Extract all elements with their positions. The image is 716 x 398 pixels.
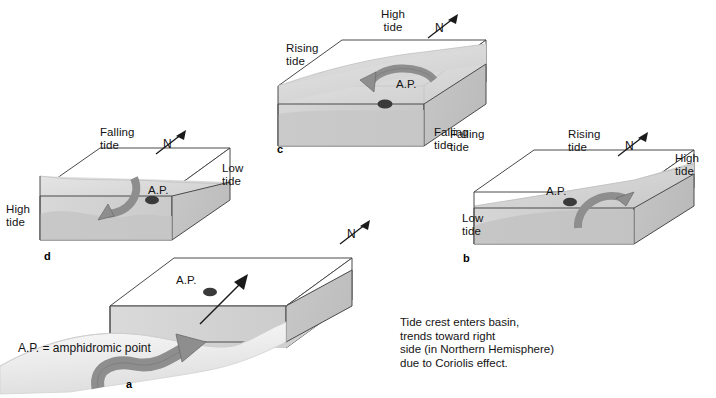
panel-b-label-high-tide: High tide: [675, 152, 699, 177]
panel-d-label-falling-tide: Falling tide: [100, 126, 135, 151]
amphidromic-point-b: [563, 198, 577, 207]
amphidromic-point-a: [203, 288, 217, 297]
compass-label-b: N: [625, 139, 634, 153]
compass-label-d: N: [163, 137, 172, 151]
panel-d: A.P.: [30, 136, 240, 256]
panel-d-label-low-tide: Low tide: [222, 162, 243, 187]
compass-label-c: N: [435, 21, 444, 35]
panel-c-label-high-tide: High tide: [381, 8, 405, 33]
panel-a-caption: Tide crest enters basin, trends toward r…: [400, 316, 554, 370]
compass-label-a: N: [347, 227, 356, 241]
panel-b-label-falling-tide: Falling tide: [450, 128, 485, 153]
panel-b-graphic: [466, 140, 704, 260]
figure-canvas: A.P. High tide Rising tide Falling tide …: [0, 0, 716, 398]
ap-label-c: A.P.: [396, 78, 417, 91]
panel-letter-c: c: [277, 143, 283, 155]
panel-letter-a: a: [126, 378, 132, 390]
amphidromic-point-c: [378, 100, 393, 109]
panel-c-label-rising-tide: Rising tide: [286, 42, 319, 67]
ap-label-b: A.P.: [546, 185, 567, 198]
compass-d: N: [152, 128, 198, 158]
panel-letter-b: b: [463, 252, 470, 264]
panel-b: A.P.: [466, 140, 704, 260]
panel-b-label-low-tide: Low tide: [462, 212, 483, 237]
ap-label-d: A.P.: [148, 184, 169, 197]
compass-c: N: [424, 12, 470, 42]
compass-b: N: [614, 130, 660, 160]
panel-d-graphic: [30, 136, 240, 256]
panel-letter-d: d: [44, 250, 51, 262]
ap-label-a: A.P.: [176, 274, 197, 287]
compass-a: N: [336, 218, 382, 248]
legend-amphidromic-point: A.P. = amphidromic point: [18, 341, 151, 355]
panel-b-label-rising-tide: Rising tide: [568, 128, 601, 153]
panel-d-label-high-tide: High tide: [6, 203, 30, 228]
amphidromic-point-d: [145, 196, 159, 205]
